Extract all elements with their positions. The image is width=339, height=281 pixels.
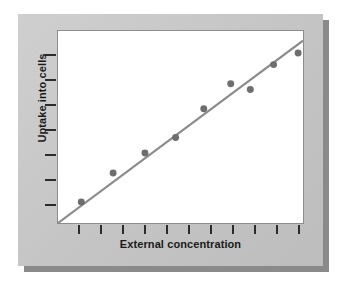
data-point [247, 86, 254, 93]
plot-area [57, 30, 304, 224]
x-axis-tick [276, 225, 278, 234]
data-point [295, 50, 302, 57]
data-point [172, 134, 179, 141]
x-axis-tick [254, 225, 256, 234]
x-axis-tick [166, 225, 168, 234]
regression-line [58, 41, 303, 223]
scatter-plot-graphic [58, 31, 303, 223]
data-point [110, 170, 117, 177]
y-axis-tick [45, 204, 56, 206]
data-point [227, 80, 234, 87]
x-axis-tick [210, 225, 212, 234]
data-point [78, 198, 85, 205]
data-point [270, 61, 277, 68]
x-axis-label: External concentration [57, 238, 304, 250]
y-axis-label: Uptake into cells [36, 33, 48, 163]
x-axis-tick [100, 225, 102, 234]
x-axis-tick [144, 225, 146, 234]
x-axis-tick [78, 225, 80, 234]
chart-panel: Uptake into cells External concentration [18, 14, 323, 266]
x-axis-tick [188, 225, 190, 234]
x-axis-tick [232, 225, 234, 234]
x-axis-tick [298, 225, 300, 234]
y-axis-tick [45, 179, 56, 181]
data-point [200, 105, 207, 112]
data-point [142, 149, 149, 156]
x-axis-tick [122, 225, 124, 234]
figure-container: Uptake into cells External concentration [0, 0, 339, 281]
